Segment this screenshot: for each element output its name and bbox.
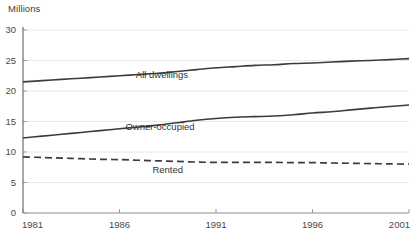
y-tick-label: 20 [5,85,16,96]
y-tick-label: 15 [5,116,16,127]
series-line [23,157,409,164]
y-tick-label: 5 [11,177,16,188]
series-labels: All dwellingsOwner-occupiedRented [125,69,194,175]
series-label: Rented [152,164,183,175]
y-tick-label: 10 [5,146,16,157]
x-tick-marks [23,209,409,213]
axis-lines [23,27,409,213]
x-tick-label: 2001 [389,219,410,230]
x-tick-label: 1996 [302,219,323,230]
gridlines [23,30,409,213]
x-tick-label: 1991 [205,219,226,230]
series-label: Owner-occupied [125,121,194,132]
x-tick-label: 1986 [109,219,130,230]
y-tick-label: 0 [11,207,16,218]
line-chart-plot: 051015202530 19811986199119962001 All dw… [0,0,418,238]
series-line [23,59,409,82]
y-tick-label: 30 [5,24,16,35]
chart-container: Millions 051015202530 198119861991199620… [0,0,418,238]
x-tick-labels: 19811986199119962001 [22,219,410,230]
y-tick-labels: 051015202530 [5,24,16,218]
data-series [23,59,409,165]
y-tick-label: 25 [5,55,16,66]
x-tick-label: 1981 [22,219,43,230]
series-label: All dwellings [136,69,189,80]
